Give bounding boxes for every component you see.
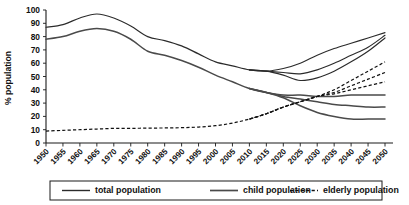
x-tick-label: 2035: [320, 147, 339, 166]
x-tick-label: 1995: [184, 147, 203, 166]
series-line-elderly-population-low: [249, 82, 385, 119]
y-axis-title: % population: [3, 51, 13, 105]
x-tick-label: 2005: [218, 147, 237, 166]
x-tick-label: 2000: [201, 147, 220, 166]
x-tick-label: 2015: [252, 147, 271, 166]
x-tick-label: 1965: [83, 147, 102, 166]
y-tick-label: 20: [31, 111, 41, 121]
x-tick-label: 1980: [134, 147, 153, 166]
y-tick-label: 30: [31, 98, 41, 108]
legend-label-elderly-population: elderly population: [323, 185, 399, 195]
x-tick-label: 1985: [150, 147, 169, 166]
x-tick-label: 1950: [32, 147, 51, 166]
x-tick-label: 1960: [66, 147, 85, 166]
x-tick-label: 1970: [100, 147, 119, 166]
y-axis-title-text: % population: [3, 51, 13, 105]
y-tick-label: 60: [31, 58, 41, 68]
chart-series-group: [46, 14, 385, 131]
series-line-child-population-low: [249, 88, 385, 119]
legend-label-child-population: child population: [243, 185, 311, 195]
y-tick-label: 70: [31, 45, 41, 55]
legend-label-total-population: total population: [95, 185, 161, 195]
y-tick-label: 40: [31, 85, 41, 95]
x-tick-label: 2020: [269, 147, 288, 166]
x-tick-label: 1975: [117, 147, 136, 166]
x-tick-label: 2040: [337, 147, 356, 166]
x-tick-label: 1990: [167, 147, 186, 166]
x-tick-label: 2025: [286, 147, 305, 166]
y-tick-label: 10: [31, 125, 41, 135]
chart-svg: % population 0102030405060708090100 1950…: [0, 0, 409, 205]
y-tick-label: 100: [26, 5, 40, 15]
chart-legend: total populationchild populationelderly …: [50, 181, 399, 200]
x-tick-label: 2010: [235, 147, 254, 166]
x-tick-label: 2030: [303, 147, 322, 166]
population-projection-chart: % population 0102030405060708090100 1950…: [0, 0, 409, 205]
y-tick-label: 90: [31, 18, 41, 28]
series-line-total-population-low: [249, 38, 385, 81]
y-tick-label: 0: [35, 138, 40, 148]
y-tick-label: 80: [31, 32, 41, 42]
y-axis-ticks: 0102030405060708090100: [26, 5, 46, 148]
x-tick-label: 2050: [371, 147, 390, 166]
x-tick-label: 2045: [354, 147, 373, 166]
x-tick-label: 1955: [49, 147, 68, 166]
series-line-child-population-medium: [249, 88, 385, 107]
x-axis-ticks: 1950195519601965197019751980198519901995…: [32, 143, 390, 166]
y-tick-label: 50: [31, 72, 41, 82]
